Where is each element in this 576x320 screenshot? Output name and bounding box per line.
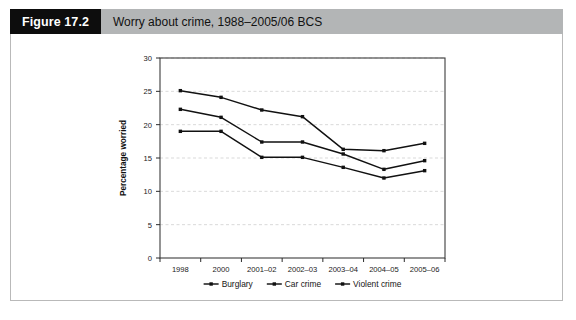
x-tick-label: 2001–02 <box>247 265 277 274</box>
y-axis-ticks-group: 051015202530 <box>144 54 160 263</box>
x-tick-label: 2002–03 <box>288 265 318 274</box>
line-chart: 051015202530 199820002001–022002–032003–… <box>10 34 563 301</box>
y-axis-title: Percentage worried <box>119 120 128 196</box>
data-point-marker <box>301 156 304 159</box>
legend-label-violent-crime: Violent crime <box>353 279 402 289</box>
y-tick-label: 10 <box>144 187 152 196</box>
data-point-marker <box>179 130 182 133</box>
data-point-marker <box>382 176 385 179</box>
y-axis-title-group: Percentage worried <box>119 120 128 196</box>
data-series-group <box>179 89 427 180</box>
data-point-marker <box>179 89 182 92</box>
y-tick-label: 20 <box>144 121 152 130</box>
y-tick-label: 25 <box>144 87 152 96</box>
data-point-marker <box>423 142 426 145</box>
legend-marker-burglary <box>209 282 212 285</box>
figure-number-tag: Figure 17.2 <box>10 9 101 34</box>
x-tick-label: 2004–05 <box>369 265 399 274</box>
y-tick-label: 15 <box>144 154 152 163</box>
data-point-marker <box>301 115 304 118</box>
legend-marker-violent-crime <box>341 282 344 285</box>
data-point-marker <box>219 130 222 133</box>
figure-container: Figure 17.2 Worry about crime, 1988–2005… <box>0 0 576 320</box>
data-point-marker <box>301 140 304 143</box>
data-point-marker <box>219 96 222 99</box>
data-point-marker <box>342 166 345 169</box>
y-tick-label: 30 <box>144 54 152 63</box>
data-point-marker <box>260 156 263 159</box>
y-tick-label: 0 <box>148 254 152 263</box>
legend-group: BurglaryCar crimeViolent crime <box>204 279 402 289</box>
x-tick-label: 2003–04 <box>328 265 358 274</box>
data-point-marker <box>382 149 385 152</box>
figure-header-band: Figure 17.2 Worry about crime, 1988–2005… <box>10 9 563 34</box>
data-point-marker <box>423 169 426 172</box>
legend-label-car-crime: Car crime <box>285 279 322 289</box>
legend-marker-car-crime <box>273 282 276 285</box>
chart-plot-region: 051015202530 199820002001–022002–032003–… <box>10 34 563 301</box>
legend-label-burglary: Burglary <box>222 279 254 289</box>
x-tick-label: 2005–06 <box>410 265 440 274</box>
data-point-marker <box>260 108 263 111</box>
data-point-marker <box>423 159 426 162</box>
data-point-marker <box>179 108 182 111</box>
x-tick-label: 1998 <box>172 265 189 274</box>
figure-title: Worry about crime, 1988–2005/06 BCS <box>113 9 322 34</box>
y-tick-label: 5 <box>148 221 152 230</box>
series-line-violent-crime <box>180 131 424 178</box>
x-tick-label: 2000 <box>213 265 230 274</box>
data-point-marker <box>260 140 263 143</box>
data-point-marker <box>342 152 345 155</box>
x-axis-ticks-group: 199820002001–022002–032003–042004–052005… <box>160 258 445 274</box>
data-point-marker <box>382 168 385 171</box>
data-point-marker <box>219 116 222 119</box>
data-point-marker <box>342 148 345 151</box>
